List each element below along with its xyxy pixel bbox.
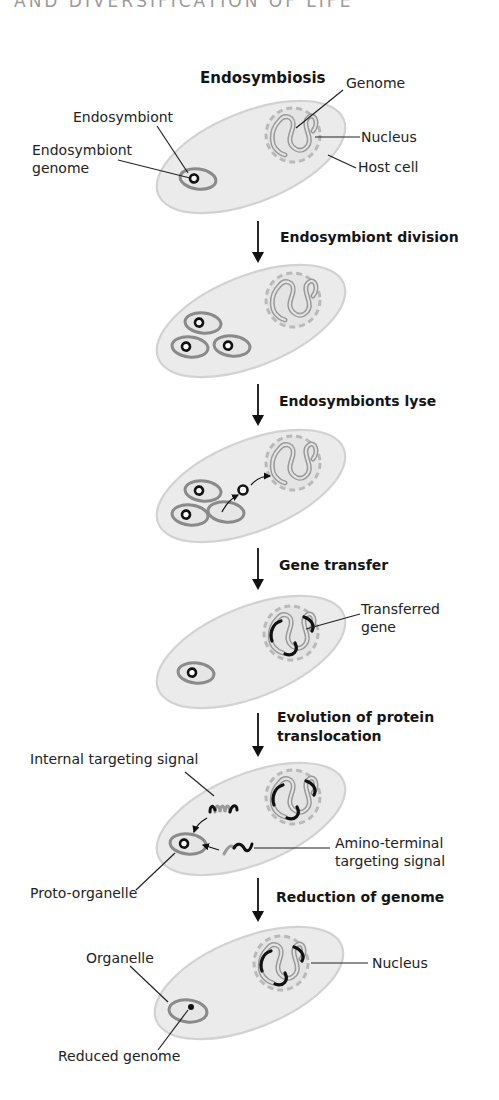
label-proto-organelle: Proto-organelle [30,885,137,902]
nucleus-4 [264,606,318,660]
label-nucleus-final: Nucleus [372,955,428,972]
step-endosymbiont-division: Endosymbiont division [280,228,459,246]
host-cell-6 [139,904,358,1062]
label-transferred-gene-1: Transferred [361,601,440,618]
nucleus-1 [266,108,320,162]
nucleus-5 [266,770,320,824]
label-internal-targeting-signal: Internal targeting signal [30,751,199,768]
nucleus-2 [266,273,320,327]
label-transferred-gene-2: gene [361,619,396,636]
label-genome: Genome [346,75,405,92]
nucleus-3 [266,436,320,490]
label-endosymbiont-genome-1: Endosymbiont [32,142,132,159]
label-organelle: Organelle [86,950,154,967]
label-endosymbiont-genome-2: genome [32,160,89,177]
host-cell-3 [141,407,360,565]
step-gene-transfer: Gene transfer [279,556,388,574]
label-reduced-genome: Reduced genome [58,1048,180,1065]
label-amino-terminal-2: targeting signal [335,853,445,870]
label-amino-terminal-1: Amino-terminal [335,835,443,852]
step-protein-translocation-2: translocation [277,727,382,745]
endosymbiosis-diagram: AND DIVERSIFICATION OF LIFE Endosymbiosi… [0,0,499,1100]
label-host-cell: Host cell [358,159,418,176]
host-cell-1 [141,78,360,236]
step-genome-reduction: Reduction of genome [276,888,444,906]
step-protein-translocation-1: Evolution of protein [277,708,434,726]
label-nucleus: Nucleus [361,129,417,146]
nucleus-6 [254,936,308,990]
host-cell-2 [141,242,360,400]
step-endosymbionts-lyse: Endosymbionts lyse [279,392,436,410]
label-endosymbiont: Endosymbiont [73,109,173,126]
